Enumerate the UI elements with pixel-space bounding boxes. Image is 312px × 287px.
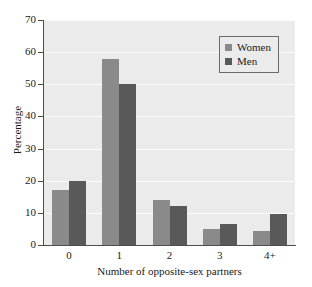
y-tick-label: 70 [2,14,36,25]
bar-women-1 [102,59,119,245]
bar-women-2 [153,200,170,245]
bar-men-1 [119,84,136,245]
y-tick-mark [38,181,43,182]
y-tick-label: 60 [2,46,36,57]
x-axis-line [43,245,296,246]
x-tick-label: 4+ [245,249,295,261]
bar-men-3 [220,224,237,245]
x-tick-label: 0 [44,249,94,261]
bar-women-0 [52,190,69,245]
y-tick-label: 10 [2,207,36,218]
bar-group [153,20,187,245]
x-tick-label: 3 [195,249,245,261]
bar-group [102,20,136,245]
legend-item-men: Men [225,54,271,68]
bar-men-0 [69,181,86,245]
y-tick-mark [38,149,43,150]
y-tick-mark [38,245,43,246]
y-tick-mark [38,116,43,117]
x-axis-title: Number of opposite-sex partners [44,265,295,277]
bar-group [52,20,86,245]
y-tick-label: 0 [2,239,36,250]
x-tick-label: 1 [94,249,144,261]
y-tick-mark [38,84,43,85]
y-tick-mark [38,213,43,214]
bar-men-2 [170,206,187,245]
y-axis-line [43,20,44,246]
x-tick-label: 2 [145,249,195,261]
legend-swatch-women [225,44,232,51]
legend-label-men: Men [237,56,257,67]
y-axis-title: Percentage [11,80,23,180]
bar-chart: 010203040506070 01234+ Number of opposit… [0,0,312,287]
legend-swatch-men [225,58,232,65]
y-tick-mark [38,20,43,21]
bar-men-4plus [270,214,287,245]
bar-women-3 [203,229,220,245]
legend: Women Men [219,36,279,73]
bar-women-4plus [253,231,270,245]
y-tick-mark [38,52,43,53]
legend-item-women: Women [225,40,271,54]
legend-label-women: Women [237,42,271,53]
